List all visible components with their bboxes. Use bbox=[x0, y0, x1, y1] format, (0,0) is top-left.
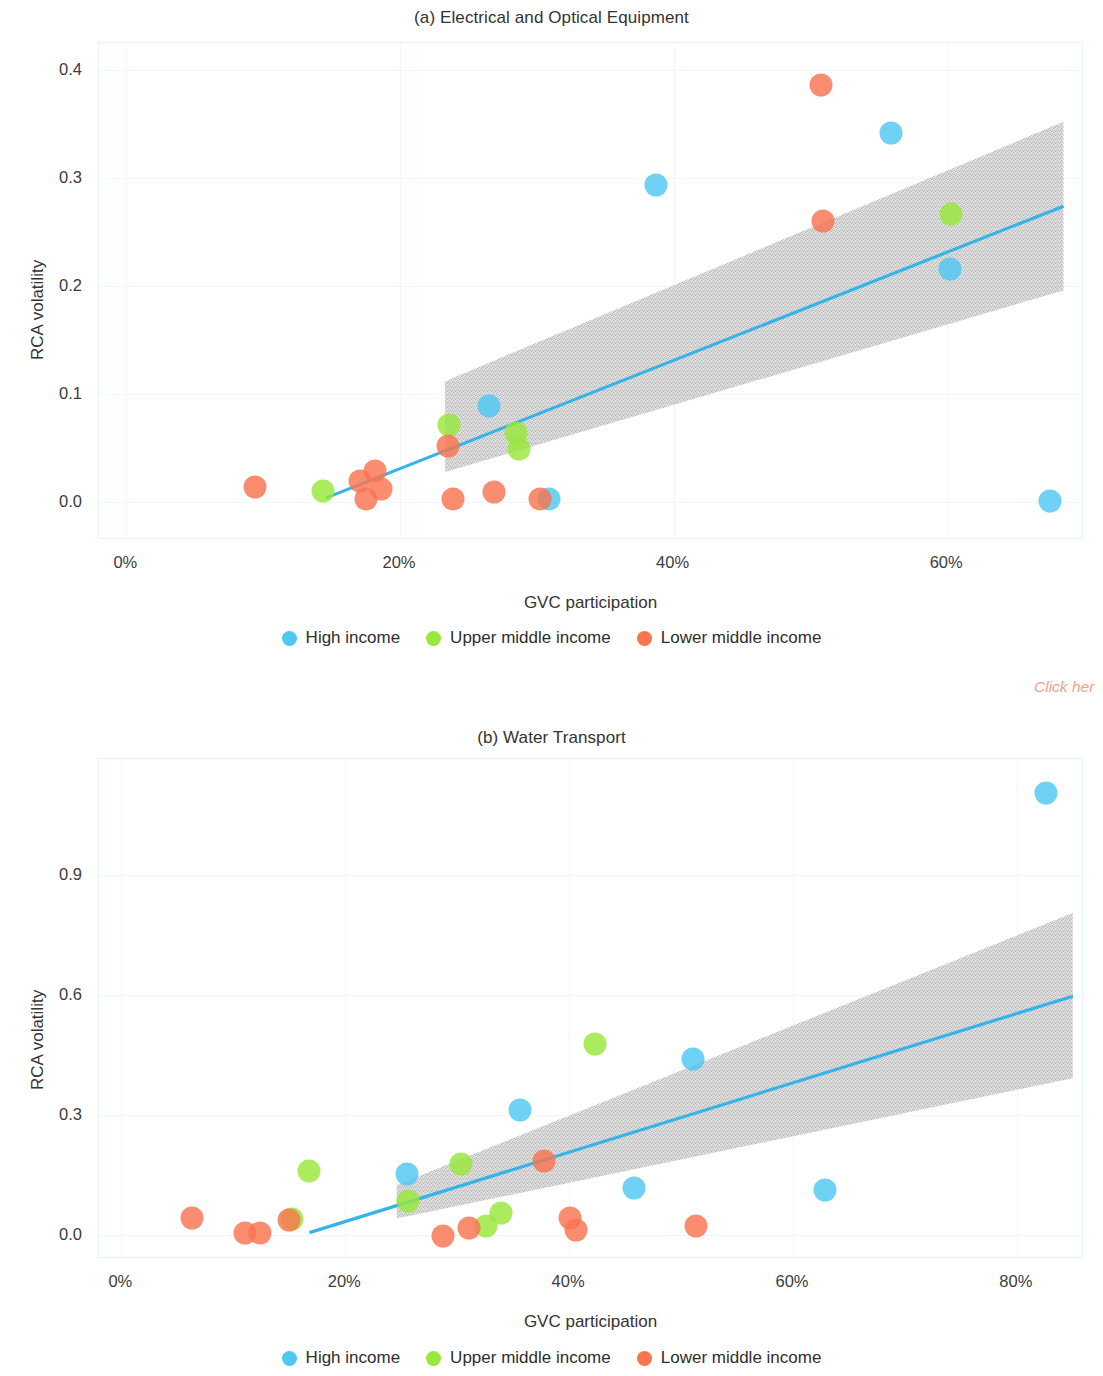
legend-dot-icon bbox=[282, 1351, 297, 1366]
x-tick-label: 60% bbox=[775, 1272, 808, 1291]
x-tick-label: 80% bbox=[999, 1272, 1032, 1291]
scatter-point bbox=[395, 1163, 418, 1186]
scatter-point bbox=[811, 210, 834, 233]
chart-a-trend-overlay bbox=[99, 43, 1084, 540]
y-tick-label: 0.0 bbox=[59, 1225, 82, 1244]
scatter-point bbox=[533, 1150, 556, 1173]
scatter-point bbox=[180, 1207, 203, 1230]
legend-item[interactable]: Lower middle income bbox=[637, 628, 822, 648]
scatter-point bbox=[458, 1216, 481, 1239]
scatter-point bbox=[508, 1099, 531, 1122]
legend-label: Upper middle income bbox=[450, 628, 611, 648]
legend-label: High income bbox=[306, 1348, 401, 1368]
legend-dot-icon bbox=[426, 631, 441, 646]
scatter-point bbox=[1034, 782, 1057, 805]
scatter-point bbox=[436, 435, 459, 458]
chart-panel-b: (b) Water Transport 0.00.30.60.9 0%20%40… bbox=[0, 690, 1103, 1376]
scatter-point bbox=[438, 414, 461, 437]
chart-b-trend-overlay bbox=[99, 759, 1084, 1259]
legend-label: Lower middle income bbox=[661, 628, 822, 648]
scatter-point bbox=[644, 173, 667, 196]
scatter-point bbox=[442, 487, 465, 510]
scatter-point bbox=[449, 1152, 472, 1175]
scatter-point bbox=[249, 1222, 272, 1245]
scatter-point bbox=[396, 1189, 419, 1212]
chart-b-title: (b) Water Transport bbox=[0, 728, 1103, 748]
y-tick-label: 0.3 bbox=[59, 168, 82, 187]
x-tick-label: 0% bbox=[108, 1272, 132, 1291]
trend-line bbox=[326, 206, 1063, 498]
chart-b-plot-area bbox=[98, 758, 1083, 1258]
legend-label: Upper middle income bbox=[450, 1348, 611, 1368]
x-tick-label: 0% bbox=[113, 553, 137, 572]
scatter-point bbox=[814, 1178, 837, 1201]
y-tick-label: 0.1 bbox=[59, 384, 82, 403]
scatter-point bbox=[483, 481, 506, 504]
x-tick-label: 20% bbox=[382, 553, 415, 572]
scatter-point bbox=[938, 257, 961, 280]
legend-dot-icon bbox=[637, 1351, 652, 1366]
chart-b-legend: High incomeUpper middle incomeLower midd… bbox=[0, 1348, 1103, 1368]
scatter-point bbox=[684, 1214, 707, 1237]
scatter-point bbox=[431, 1224, 454, 1247]
scatter-point bbox=[583, 1032, 606, 1055]
scatter-point bbox=[278, 1208, 301, 1231]
chart-a-y-axis-label: RCA volatility bbox=[28, 260, 48, 360]
x-tick-label: 20% bbox=[328, 1272, 361, 1291]
chart-panel-a: (a) Electrical and Optical Equipment 0.0… bbox=[0, 0, 1103, 690]
legend-label: Lower middle income bbox=[661, 1348, 822, 1368]
chart-a-plot-area bbox=[98, 42, 1083, 539]
y-tick-label: 0.6 bbox=[59, 985, 82, 1004]
chart-a-x-axis-label: GVC participation bbox=[98, 593, 1083, 613]
scatter-point bbox=[507, 438, 530, 461]
scatter-point bbox=[312, 480, 335, 503]
legend-item[interactable]: Upper middle income bbox=[426, 1348, 611, 1368]
scatter-point bbox=[1038, 490, 1061, 513]
legend-item[interactable]: High income bbox=[282, 1348, 401, 1368]
y-tick-label: 0.3 bbox=[59, 1105, 82, 1124]
chart-a-legend: High incomeUpper middle incomeLower midd… bbox=[0, 628, 1103, 648]
y-tick-label: 0.0 bbox=[59, 492, 82, 511]
y-tick-label: 0.9 bbox=[59, 865, 82, 884]
chart-b-x-axis-label: GVC participation bbox=[98, 1312, 1083, 1332]
figure-root: (a) Electrical and Optical Equipment 0.0… bbox=[0, 0, 1103, 1376]
confidence-band bbox=[445, 122, 1063, 472]
y-tick-label: 0.4 bbox=[59, 60, 82, 79]
x-tick-label: 40% bbox=[552, 1272, 585, 1291]
trend-line bbox=[309, 996, 1072, 1232]
scatter-point bbox=[623, 1177, 646, 1200]
chart-a-x-axis-ticks: 0%20%40%60% bbox=[98, 553, 1083, 577]
scatter-point bbox=[880, 121, 903, 144]
scatter-point bbox=[682, 1047, 705, 1070]
scatter-point bbox=[810, 74, 833, 97]
legend-label: High income bbox=[306, 628, 401, 648]
legend-item[interactable]: Lower middle income bbox=[637, 1348, 822, 1368]
scatter-point bbox=[564, 1219, 587, 1242]
scatter-point bbox=[298, 1160, 321, 1183]
chart-b-y-axis-label: RCA volatility bbox=[28, 990, 48, 1090]
x-tick-label: 40% bbox=[656, 553, 689, 572]
legend-dot-icon bbox=[637, 631, 652, 646]
legend-dot-icon bbox=[426, 1351, 441, 1366]
scatter-point bbox=[477, 395, 500, 418]
scatter-point bbox=[940, 202, 963, 225]
x-tick-label: 60% bbox=[930, 553, 963, 572]
scatter-point bbox=[528, 487, 551, 510]
scatter-point bbox=[243, 476, 266, 499]
legend-dot-icon bbox=[282, 631, 297, 646]
chart-b-x-axis-ticks: 0%20%40%60%80% bbox=[98, 1272, 1083, 1296]
scatter-point bbox=[369, 478, 392, 501]
chart-a-title: (a) Electrical and Optical Equipment bbox=[0, 8, 1103, 28]
legend-item[interactable]: Upper middle income bbox=[426, 628, 611, 648]
y-tick-label: 0.2 bbox=[59, 276, 82, 295]
legend-item[interactable]: High income bbox=[282, 628, 401, 648]
